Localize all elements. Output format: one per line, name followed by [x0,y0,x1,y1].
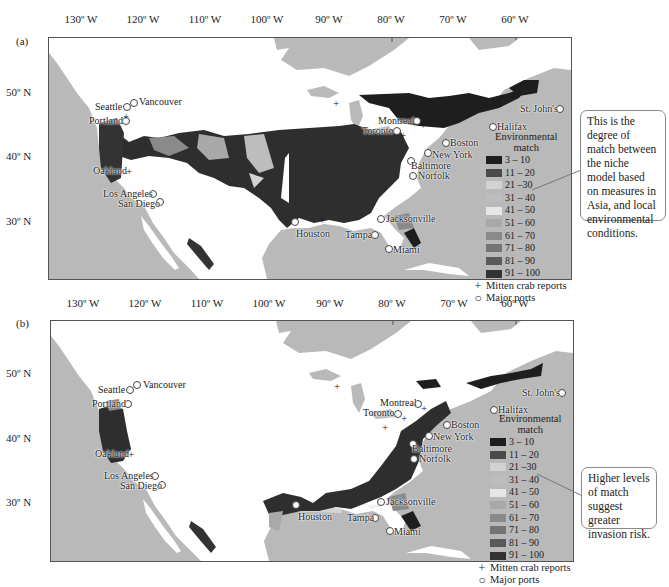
callout-b: Higher levels of match suggest greater i… [581,467,657,529]
city-label-toronto: Toronto [362,125,394,136]
legend-row: 41 – 50 [486,204,566,217]
lat-tick-50n: 50º N [6,86,31,98]
legend-crab-row: +Mitten crab reports [476,562,570,574]
city-label-tampa: Tampa [345,229,372,240]
city-label-new-york: New York [432,149,473,160]
port-marker [133,381,141,389]
city-label-boston: Boston [450,137,478,148]
panel-b: (b) 130º W 120º W 110º W 100º W 90º W 80… [0,282,669,577]
port-marker [442,139,450,147]
legend-row: 51 – 60 [486,217,566,230]
port-marker [292,501,300,509]
city-label-san-diego: San Diego [120,480,162,491]
port-marker [443,421,451,429]
port-circle-icon: ○ [476,574,488,587]
crab-report-icon: + [421,403,427,414]
city-label-portland: Portland [89,115,123,126]
port-marker [377,498,385,506]
city-label-portland: Portland [92,398,126,409]
crab-report-icon: + [400,130,406,141]
legend-row: 71 – 80 [486,242,566,255]
legend-port-row: ○Major ports [476,574,570,586]
crab-report-icon: + [334,381,340,392]
legend-row: 71 – 80 [490,524,570,537]
city-label-new-york: New York [433,431,474,442]
port-marker [291,218,299,226]
legend-row: 3 – 10 [490,436,570,449]
city-label-seattle: Seattle [98,384,125,395]
legend-row: 81 – 90 [490,537,570,550]
lon-tick-130w: 130º W [67,297,100,309]
port-marker [489,123,497,131]
lon-tick-100w: 100º W [253,297,286,309]
panel-a: (a) 130º W 120º W 110º W 100º W 90º W 80… [0,0,669,290]
port-marker [126,386,134,394]
port-marker [424,149,432,157]
port-marker [386,527,394,535]
legend-row: 91 – 100 [486,267,566,280]
port-marker [409,172,417,180]
panel-label-a: (a) [16,35,28,47]
city-label-baltimore: Baltimore [411,160,451,171]
lon-tick-80w: 80º W [378,297,405,309]
legend-title: Environmentalmatch [490,413,570,435]
city-label-boston: Boston [451,419,479,430]
city-label-houston: Houston [298,511,332,522]
crab-report-icon: + [420,120,426,131]
city-label-seattle: Seattle [95,101,122,112]
lat-tick-40n: 40º N [6,150,31,162]
legend-row: 61 – 70 [486,230,566,243]
port-marker [371,231,379,239]
lon-tick-90w: 90º W [316,297,343,309]
lon-tick-70w: 70º W [439,13,466,25]
legend-row: 81 – 90 [486,255,566,268]
city-label-vancouver: Vancouver [139,96,182,107]
city-label-baltimore: Baltimore [412,443,452,454]
city-label-san-diego: San Diego [118,198,160,209]
callout-a: This is the degree of match between the … [580,110,666,221]
lon-tick-120w: 120º W [129,297,162,309]
lon-tick-60w: 60º W [501,297,528,309]
legend-row: 91 – 100 [490,549,570,562]
legend-row: 11 – 20 [490,449,570,462]
crab-report-icon: + [333,98,339,109]
city-label-st-johns: St. John's [522,387,560,398]
city-label-miami: Miami [393,244,420,255]
city-label-toronto: Toronto [363,407,395,418]
port-marker [130,99,138,107]
lon-tick-70w: 70º W [440,297,467,309]
panel-label-b: (b) [16,317,29,329]
lon-tick-80w: 80º W [377,13,404,25]
city-label-vancouver: Vancouver [143,379,186,390]
lon-tick-100w: 100º W [251,13,284,25]
city-label-norfolk: Norfolk [418,170,450,181]
city-label-st-johns: St. John's [520,103,558,114]
port-marker [377,215,385,223]
lon-tick-90w: 90º W [315,13,342,25]
crab-report-icon: + [319,215,325,226]
lon-tick-110w: 110º W [189,13,221,25]
city-label-tampa: Tampa [347,512,374,523]
lat-tick-40n: 40º N [6,432,31,444]
city-label-norfolk: Norfolk [419,453,451,464]
lat-tick-30n: 30º N [6,215,31,227]
port-marker [425,432,433,440]
city-label-jacksonville: Jacksonville [386,213,435,224]
crab-report-icon: + [382,422,388,433]
port-marker [385,245,393,253]
crab-report-icon: + [401,413,407,424]
city-label-jacksonville: Jacksonville [386,496,435,507]
city-label-houston: Houston [296,228,330,239]
city-label-miami: Miami [394,526,421,537]
city-label-oakland: Oakland [95,448,129,459]
legend-row: 61 – 70 [490,512,570,525]
lon-tick-120w: 120º W [127,13,160,25]
crab-report-icon: + [123,111,129,122]
lat-tick-50n: 50º N [6,367,31,379]
lon-tick-110w: 110º W [191,297,223,309]
port-marker [410,455,418,463]
lat-tick-30n: 30º N [6,496,31,508]
lon-tick-130w: 130º W [65,13,98,25]
lon-tick-60w: 60º W [501,13,528,25]
city-label-oakland: Oakland [93,165,127,176]
